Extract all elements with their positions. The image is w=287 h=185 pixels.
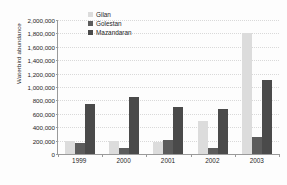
- x-axis-ticks: 19992000200120022003: [57, 157, 279, 164]
- plot-area: 0200,000400,000600,000800,0001,000,0001,…: [57, 20, 279, 155]
- legend-label: Gilan: [96, 11, 111, 18]
- x-tick-label-2000: 2000: [104, 157, 144, 164]
- bar-golestan-2003: [252, 137, 262, 154]
- bar-mazandaran-2001: [173, 107, 183, 154]
- bar-mazandaran-1999: [85, 104, 95, 154]
- x-tick-label-2002: 2002: [192, 157, 232, 164]
- waterbird-abundance-bar-chart: Waterbird abundance 0200,000400,000600,0…: [0, 0, 287, 185]
- legend-label: Golestan: [96, 20, 122, 27]
- y-tick-label: 0: [52, 151, 55, 158]
- bar-group-2000: [109, 20, 139, 154]
- legend-swatch-icon: [88, 12, 93, 17]
- legend-item-mazandaran[interactable]: Mazandaran: [88, 29, 132, 36]
- bar-mazandaran-2002: [218, 109, 228, 154]
- x-tick-label-2003: 2003: [237, 157, 277, 164]
- y-tick-label: 800,000: [33, 97, 55, 104]
- legend-swatch-icon: [88, 21, 93, 26]
- y-tick-label: 400,000: [33, 124, 55, 131]
- bar-gilan-2002: [198, 121, 208, 155]
- bar-mazandaran-2000: [129, 97, 139, 154]
- bar-group-2003: [242, 20, 272, 154]
- bar-golestan-2000: [119, 148, 129, 154]
- bar-group-2001: [153, 20, 183, 154]
- y-tick-label: 1,400,000: [27, 57, 55, 64]
- bar-golestan-2002: [208, 148, 218, 154]
- bar-golestan-1999: [75, 143, 85, 154]
- y-tick-label: 1,800,000: [27, 30, 55, 37]
- bar-gilan-1999: [65, 141, 75, 154]
- y-tick-label: 1,600,000: [27, 43, 55, 50]
- legend-label: Mazandaran: [96, 29, 132, 36]
- bar-gilan-2000: [109, 141, 119, 154]
- bar-gilan-2001: [153, 142, 163, 154]
- x-tick-label-2001: 2001: [148, 157, 188, 164]
- bar-mazandaran-2003: [262, 80, 272, 154]
- x-tick-label-1999: 1999: [59, 157, 99, 164]
- bar-golestan-2001: [163, 140, 173, 154]
- y-tick-label: 600,000: [33, 110, 55, 117]
- x-tick-mark: [279, 154, 280, 157]
- bar-group-2002: [198, 20, 228, 154]
- y-tick-label: 1,000,000: [27, 84, 55, 91]
- bar-group-1999: [65, 20, 95, 154]
- y-tick-label: 2,000,000: [27, 17, 55, 24]
- chart-legend: GilanGolestanMazandaran: [88, 11, 132, 36]
- y-tick-label: 200,000: [33, 137, 55, 144]
- bar-groups: [58, 20, 279, 154]
- y-axis-title: Waterbird abundance: [15, 0, 22, 119]
- y-tick-label: 1,200,000: [27, 70, 55, 77]
- legend-item-gilan[interactable]: Gilan: [88, 11, 132, 18]
- legend-item-golestan[interactable]: Golestan: [88, 20, 132, 27]
- legend-swatch-icon: [88, 30, 93, 35]
- bar-gilan-2003: [242, 33, 252, 154]
